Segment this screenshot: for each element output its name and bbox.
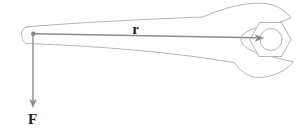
pivot-dot [31,31,36,36]
torque-wrench-figure: r F [0,0,298,129]
bolt-hole-circle [260,29,282,51]
r-label: r [132,21,139,37]
f-label: F [28,111,37,127]
wrench-diagram-canvas: r F [0,0,298,129]
